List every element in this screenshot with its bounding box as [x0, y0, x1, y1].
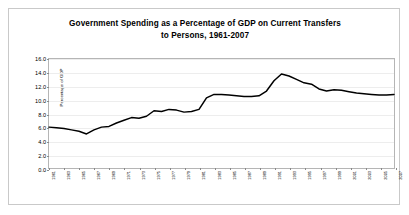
x-tick-mark: [64, 168, 65, 170]
plot-area: Percentage of GDP 16.014.012.010.08.06.0…: [48, 58, 395, 169]
x-tick-mark: [381, 168, 382, 170]
x-tick-label: 1965: [81, 171, 86, 180]
x-tick-label: 1971: [126, 171, 131, 180]
x-tick-mark: [170, 168, 171, 170]
x-tick-mark: [305, 168, 306, 170]
y-tick-mark: [47, 170, 49, 171]
x-tick-mark: [124, 168, 125, 170]
x-tick-mark: [155, 168, 156, 170]
x-tick-label: 1981: [201, 171, 206, 180]
x-tick-label: 2001: [352, 171, 357, 180]
x-tick-label: 1997: [322, 171, 327, 180]
y-tick-label: 4.0: [38, 139, 46, 145]
y-tick-label: 10.0: [35, 98, 46, 104]
x-tick-label: 1973: [141, 171, 146, 180]
x-tick-label: 1967: [96, 171, 101, 180]
data-line: [49, 74, 394, 134]
chart-title-line-1: Government Spending as a Percentage of G…: [9, 18, 401, 30]
x-tick-label: 1995: [307, 171, 312, 180]
y-tick-label: 6.0: [38, 125, 46, 131]
series-layer: [49, 59, 394, 168]
x-tick-mark: [230, 168, 231, 170]
x-tick-label: 1987: [247, 171, 252, 180]
y-tick-label: 12.0: [35, 84, 46, 90]
x-tick-mark: [49, 168, 50, 170]
x-tick-mark: [79, 168, 80, 170]
x-tick-label: 1969: [111, 171, 116, 180]
line-series-svg: [49, 59, 394, 168]
x-tick-label: 1985: [232, 171, 237, 180]
x-tick-label: 1979: [186, 171, 191, 180]
x-tick-mark: [140, 168, 141, 170]
x-tick-label: 1977: [171, 171, 176, 180]
x-tick-mark: [109, 168, 110, 170]
x-tick-mark: [336, 168, 337, 170]
x-tick-mark: [245, 168, 246, 170]
x-tick-mark: [275, 168, 276, 170]
chart-container: Government Spending as a Percentage of G…: [8, 8, 400, 205]
y-tick-label: 0.0: [38, 167, 46, 173]
x-tick-mark: [200, 168, 201, 170]
y-tick-label: 16.0: [35, 56, 46, 62]
x-tick-label: 1983: [217, 171, 222, 180]
x-tick-label: 1961: [51, 171, 56, 180]
x-tick-label: 1999: [337, 171, 342, 180]
chart-title: Government Spending as a Percentage of G…: [9, 18, 401, 41]
x-tick-label: 1991: [277, 171, 282, 180]
y-tick-label: 14.0: [35, 70, 46, 76]
x-tick-mark: [94, 168, 95, 170]
x-tick-label: 1963: [66, 171, 71, 180]
x-tick-mark: [290, 168, 291, 170]
x-tick-label: 1975: [156, 171, 161, 180]
x-tick-label: 2007: [398, 171, 403, 180]
y-tick-label: 8.0: [38, 112, 46, 118]
x-tick-mark: [351, 168, 352, 170]
x-tick-label: 2005: [383, 171, 388, 180]
x-tick-mark: [185, 168, 186, 170]
x-tick-mark: [321, 168, 322, 170]
x-tick-label: 1993: [292, 171, 297, 180]
x-tick-label: 1989: [262, 171, 267, 180]
x-tick-mark: [396, 168, 397, 170]
x-tick-mark: [215, 168, 216, 170]
x-tick-label: 2003: [367, 171, 372, 180]
chart-title-line-2: to Persons, 1961-2007: [9, 30, 401, 42]
x-tick-mark: [366, 168, 367, 170]
x-tick-mark: [260, 168, 261, 170]
y-tick-label: 2.0: [38, 153, 46, 159]
